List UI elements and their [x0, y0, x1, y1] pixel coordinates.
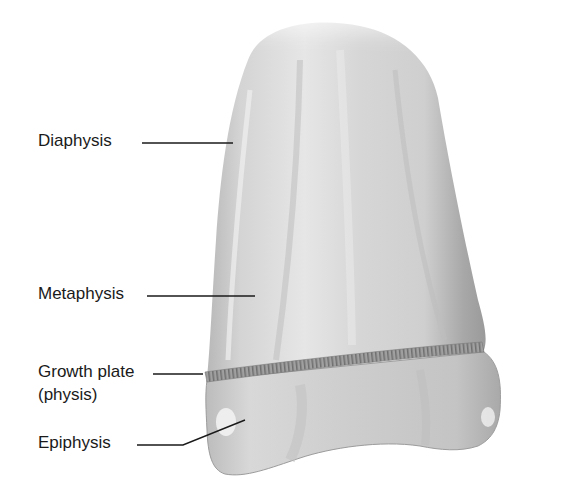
- physis-sublabel: (physis): [38, 385, 98, 405]
- bone-shaft: [180, 0, 486, 378]
- epiphysis-label: Epiphysis: [38, 433, 111, 453]
- diaphysis-label: Diaphysis: [38, 131, 112, 151]
- bone-illustration: [0, 0, 561, 499]
- metaphysis-label: Metaphysis: [38, 284, 124, 304]
- growth-plate-label: Growth plate: [38, 362, 134, 382]
